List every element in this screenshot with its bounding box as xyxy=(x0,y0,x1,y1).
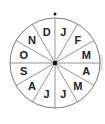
month-label: M xyxy=(73,80,82,92)
month-label: J xyxy=(60,26,66,38)
month-label: F xyxy=(75,34,82,46)
month-wheel: JFMAMJJASOND xyxy=(0,0,105,124)
month-label: A xyxy=(28,80,36,92)
month-label: J xyxy=(44,88,50,100)
center-dot xyxy=(53,61,57,65)
month-label: A xyxy=(82,65,90,77)
top-marker-dot xyxy=(54,13,57,16)
month-label: M xyxy=(82,49,91,61)
month-label: N xyxy=(28,34,36,46)
month-label: D xyxy=(43,26,51,38)
month-label: O xyxy=(19,49,28,61)
month-label: J xyxy=(60,88,66,100)
month-label: S xyxy=(20,65,27,77)
